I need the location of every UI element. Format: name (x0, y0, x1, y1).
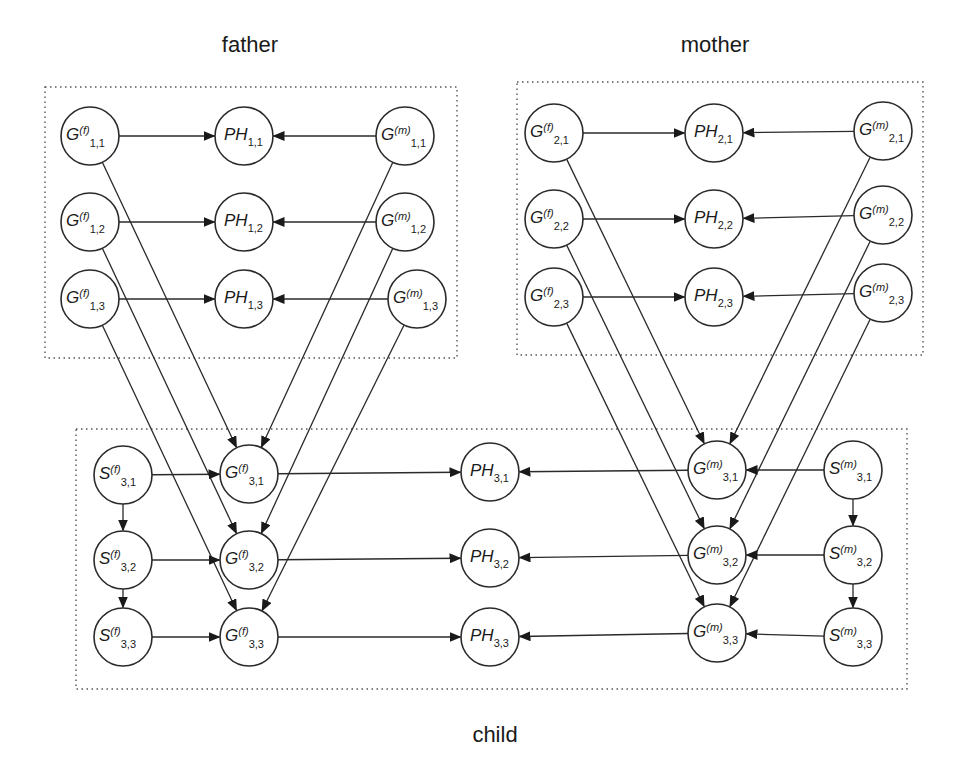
node-Gm23: G(m)2,3 (854, 264, 912, 322)
edge-Gf22-to-Gm32 (567, 245, 704, 528)
node-Sf32: S(f)3,2 (94, 531, 152, 589)
edge-Gm21-to-PH21 (743, 131, 854, 132)
edge-Gf23-to-Gm33 (567, 323, 704, 606)
edge-Gm31-to-PH31 (519, 470, 688, 471)
group-boxes (45, 82, 923, 689)
edge-Gm13-to-Gf33 (262, 325, 404, 611)
edge-Gm33-to-PH33 (519, 634, 688, 637)
edge-Gm32-to-PH32 (519, 555, 688, 557)
node-Gf33: G(f)3,3 (220, 608, 278, 666)
node-PH12: PH1,2 (215, 193, 273, 251)
nodes: G(f)1,1G(f)1,2G(f)1,3PH1,1PH1,2PH1,3G(m)… (61, 102, 912, 666)
edge-Gm12-to-Gf32 (261, 248, 392, 533)
node-Sf33: S(f)3,3 (94, 608, 152, 666)
node-Gm12: G(m)1,2 (376, 193, 434, 251)
node-Sm31: S(m)3,1 (824, 441, 882, 499)
node-Gm32: G(m)3,2 (688, 526, 746, 584)
edge-Gf31-to-PH31 (278, 472, 461, 474)
edge-Sm33-to-Gm33 (746, 634, 824, 636)
node-PH23: PH2,3 (685, 268, 743, 326)
edge-Sf31-to-Gf31 (152, 474, 220, 475)
node-PH21: PH2,1 (685, 104, 743, 162)
edge-Gm22-to-PH22 (743, 216, 854, 219)
edge-Gf21-to-Gm31 (567, 159, 705, 443)
edge-Gm23-to-PH23 (743, 294, 854, 297)
node-Gf12: G(f)1,2 (61, 193, 119, 251)
node-Gf32: G(f)3,2 (220, 531, 278, 589)
node-Sm33: S(m)3,3 (824, 608, 882, 666)
node-Gm11: G(m)1,1 (376, 107, 434, 165)
node-Gm31: G(m)3,1 (688, 441, 746, 499)
node-Gm33: G(m)3,3 (688, 604, 746, 662)
node-PH32: PH3,2 (461, 529, 519, 587)
node-PH11: PH1,1 (215, 107, 273, 165)
node-PH22: PH2,2 (685, 190, 743, 248)
node-PH13: PH1,3 (215, 270, 273, 328)
father-title: father (222, 32, 278, 57)
edge-Gm21-to-Gm31 (730, 157, 870, 443)
node-Gf31: G(f)3,1 (220, 445, 278, 503)
node-Sf31: S(f)3,1 (94, 446, 152, 504)
node-Gm13: G(m)1,3 (388, 270, 446, 328)
node-Gm21: G(m)2,1 (854, 102, 912, 160)
node-Gf22: G(f)2,2 (525, 190, 583, 248)
child-title: child (472, 722, 517, 747)
node-Gm22: G(m)2,2 (854, 186, 912, 244)
node-Gf11: G(f)1,1 (61, 107, 119, 165)
node-Gf23: G(f)2,3 (525, 268, 583, 326)
node-PH33: PH3,3 (461, 608, 519, 666)
node-Sm32: S(m)3,2 (824, 526, 882, 584)
edge-Gf32-to-PH32 (278, 558, 461, 560)
mother-title: mother (681, 32, 749, 57)
node-Gf13: G(f)1,3 (61, 270, 119, 328)
node-Gf21: G(f)2,1 (525, 104, 583, 162)
node-PH31: PH3,1 (461, 443, 519, 501)
edge-Gm11-to-Gf31 (261, 162, 392, 447)
pedigree-diagram: G(f)1,1G(f)1,2G(f)1,3PH1,1PH1,2PH1,3G(m)… (0, 0, 969, 781)
